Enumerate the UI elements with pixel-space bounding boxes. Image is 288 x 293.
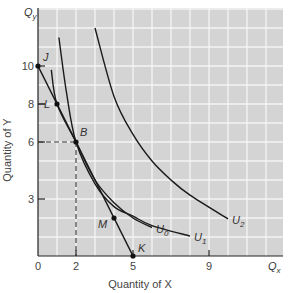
x-axis-title: Quantity of X	[108, 278, 172, 290]
x-tick-label: 2	[73, 260, 79, 272]
y-tick-label: 10	[22, 60, 34, 72]
point-l	[54, 101, 59, 106]
y-axis-symbol: Qy	[24, 6, 38, 21]
y-tick-label: 3	[28, 193, 34, 205]
y-tick-label: 8	[28, 98, 34, 110]
x-axis-symbol: Qx	[268, 260, 282, 275]
point-label: M	[98, 218, 108, 230]
point-m	[111, 215, 116, 220]
plot-background	[38, 8, 283, 256]
point-k	[130, 253, 135, 258]
point-label: J	[42, 51, 49, 63]
y-tick-label: 6	[28, 136, 34, 148]
point-label: B	[80, 126, 87, 138]
y-axis-title: Quantity of Y	[1, 118, 13, 182]
x-tick-label: 5	[130, 260, 136, 272]
point-b	[73, 139, 78, 144]
x-tick-label: 0	[35, 260, 41, 272]
x-tick-label: 9	[206, 260, 212, 272]
indifference-chart: 025936810 U0U1U2 JLBMK Qy Qx Quantity of…	[0, 0, 288, 293]
point-label: K	[138, 242, 146, 254]
point-j	[35, 63, 40, 68]
